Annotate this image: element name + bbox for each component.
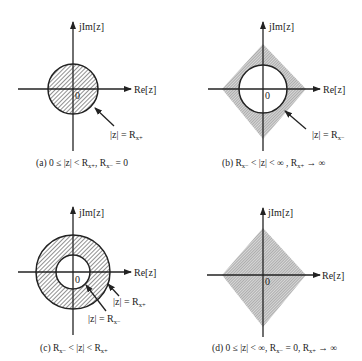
pointer-arrow — [95, 108, 114, 126]
imag-axis-label: jIm[z] — [78, 207, 104, 218]
imag-axis-label: jIm[z] — [267, 207, 293, 218]
outer-radius-annotation: |z| = Rx+ — [113, 296, 146, 308]
pointer-arrow — [285, 111, 306, 129]
caption-d: (d) 0 ≤ |z| < ∞, Rx− = 0, Rx+ → ∞ — [212, 343, 337, 354]
real-axis-label: Re[z] — [134, 267, 156, 278]
real-axis-label: Re[z] — [134, 84, 156, 95]
panel-d: jIm[z] Re[z] 0 (d) 0 ≤ |z| < ∞, Rx− = 0,… — [207, 207, 344, 354]
caption-c: (c) Rx− < |z| < Rx+ — [40, 343, 108, 354]
origin-label: 0 — [75, 274, 80, 285]
origin-label: 0 — [265, 276, 270, 287]
inner-radius-annotation: |z| = Rx− — [88, 313, 121, 325]
caption-b: (b) Rx− < |z| < ∞ , Rx+ → ∞ — [222, 158, 325, 169]
radius-annotation: |z| = Rx+ — [110, 129, 143, 141]
imag-axis-label: jIm[z] — [268, 21, 294, 32]
radius-annotation: |z| = Rx− — [312, 129, 345, 141]
origin-label: 0 — [75, 90, 80, 101]
real-axis-label: Re[z] — [322, 270, 344, 281]
panel-b: jIm[z] Re[z] 0 |z| = Rx− (b) Rx− < |z| <… — [208, 21, 345, 169]
real-axis-label: Re[z] — [323, 84, 345, 95]
panel-c: jIm[z] Re[z] 0 |z| = Rx+ |z| = Rx− (c) R… — [18, 207, 156, 354]
outer-pointer-arrow — [108, 284, 119, 296]
imag-axis-label: jIm[z] — [78, 21, 104, 32]
roc-diagram: jIm[z] Re[z] 0 |z| = Rx+ (a) 0 ≤ |z| < R… — [0, 0, 362, 361]
caption-a: (a) 0 ≤ |z| < Rx+, Rx− = 0 — [36, 158, 128, 169]
roc-whole-plane-region — [222, 228, 306, 327]
origin-label: 0 — [265, 90, 270, 101]
panel-a: jIm[z] Re[z] 0 |z| = Rx+ (a) 0 ≤ |z| < R… — [18, 21, 156, 169]
